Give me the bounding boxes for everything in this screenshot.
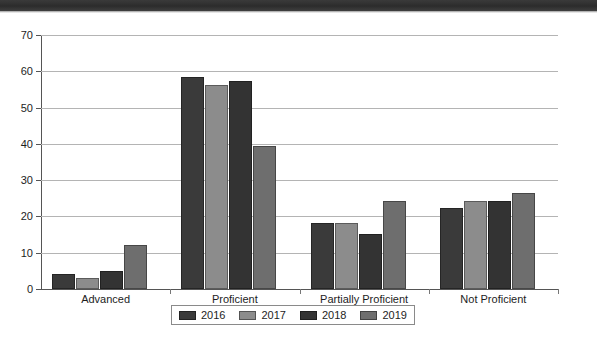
legend-item-2018[interactable]: 2018 <box>300 309 346 321</box>
bar-2018-not-proficient <box>488 201 511 289</box>
legend-label: 2018 <box>322 309 346 321</box>
y-tick-mark <box>36 289 41 290</box>
y-tick-label: 0 <box>27 283 33 295</box>
bar-group <box>429 35 558 289</box>
bar-2018-advanced <box>100 271 123 289</box>
y-tick-label: 20 <box>21 210 33 222</box>
bar-2019-not-proficient <box>512 193 535 289</box>
chart-legend: 2016201720182019 <box>171 305 415 325</box>
bar-2017-partially-proficient <box>335 223 358 289</box>
bar-2018-proficient <box>229 81 252 289</box>
bar-2019-proficient <box>253 146 276 289</box>
bar-2016-proficient <box>181 77 204 289</box>
bar-group <box>41 35 170 289</box>
bar-group <box>170 35 299 289</box>
category-label: Partially Proficient <box>320 293 408 305</box>
legend-label: 2017 <box>261 309 285 321</box>
category-label: Proficient <box>212 293 258 305</box>
bar-2016-partially-proficient <box>311 223 334 289</box>
bar-chart: 706050403020100 AdvancedProficientPartia… <box>0 13 597 341</box>
y-tick-label: 40 <box>21 138 33 150</box>
scan-artifact-band <box>0 0 597 11</box>
bar-2017-advanced <box>76 278 99 289</box>
legend-item-2017[interactable]: 2017 <box>239 309 285 321</box>
legend-label: 2019 <box>382 309 406 321</box>
legend-swatch-icon <box>300 311 317 320</box>
x-tick-mark <box>170 289 171 294</box>
x-tick-mark <box>429 289 430 294</box>
x-tick-mark <box>300 289 301 294</box>
bar-2018-partially-proficient <box>359 234 382 289</box>
y-tick-label: 50 <box>21 102 33 114</box>
y-tick-label: 60 <box>21 65 33 77</box>
bar-2019-partially-proficient <box>383 201 406 289</box>
bar-2017-not-proficient <box>464 201 487 289</box>
bar-2016-not-proficient <box>440 208 463 289</box>
legend-swatch-icon <box>360 311 377 320</box>
bar-2016-advanced <box>52 274 75 289</box>
x-tick-mark <box>558 289 559 294</box>
y-tick-label: 30 <box>21 174 33 186</box>
category-label: Not Proficient <box>460 293 526 305</box>
legend-swatch-icon <box>179 311 196 320</box>
bar-group <box>300 35 429 289</box>
y-tick-label: 70 <box>21 29 33 41</box>
plot-area: 706050403020100 AdvancedProficientPartia… <box>41 35 558 289</box>
category-label: Advanced <box>81 293 130 305</box>
legend-item-2016[interactable]: 2016 <box>179 309 225 321</box>
legend-label: 2016 <box>201 309 225 321</box>
legend-item-2019[interactable]: 2019 <box>360 309 406 321</box>
bar-2017-proficient <box>205 85 228 289</box>
y-tick-label: 10 <box>21 247 33 259</box>
legend-swatch-icon <box>239 311 256 320</box>
bar-2019-advanced <box>124 245 147 289</box>
